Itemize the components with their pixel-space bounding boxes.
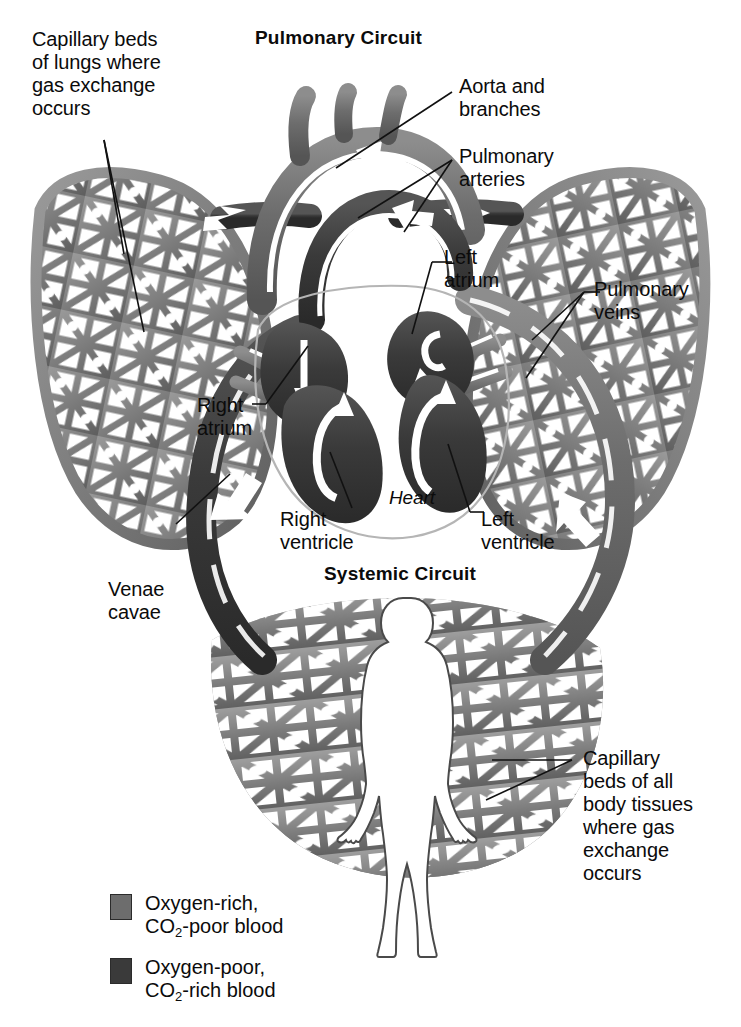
pulmonary-circuit-title: Pulmonary Circuit [255, 26, 422, 49]
legend-line2-sub-oxygen-poor: 2 [175, 989, 182, 1004]
legend-swatch-oxygen-poor [110, 958, 132, 984]
legend-line1-oxygen-poor: Oxygen-poor, [145, 956, 265, 978]
pulmonary-trunk [311, 200, 460, 320]
legend-line1-oxygen-rich: Oxygen-rich, [145, 892, 258, 914]
label-left-atrium: Left atrium [444, 246, 499, 292]
label-capillary-beds-body: Capillary beds of all body tissues where… [583, 747, 693, 885]
label-capillary-beds-lungs: Capillary beds of lungs where gas exchan… [32, 28, 161, 120]
legend-line2-post-oxygen-poor: -rich blood [182, 979, 275, 1001]
label-left-ventricle: Left ventricle [481, 508, 555, 554]
legend-item-oxygen-rich: Oxygen-rich,CO2-poor blood [110, 892, 283, 940]
legend-text-oxygen-poor: Oxygen-poor,CO2-rich blood [145, 956, 276, 1004]
legend-line2-sub-oxygen-rich: 2 [175, 925, 182, 940]
right-ventricle-chamber [281, 385, 382, 523]
legend-line2-pre-oxygen-rich: CO [145, 915, 175, 937]
label-pulmonary-arteries: Pulmonary arteries [459, 145, 554, 191]
systemic-circuit-title: Systemic Circuit [324, 562, 476, 585]
label-venae-cavae: Venae cavae [108, 578, 164, 624]
legend-item-oxygen-poor: Oxygen-poor,CO2-rich blood [110, 956, 276, 1004]
legend-swatch-oxygen-rich [110, 894, 132, 920]
legend-text-oxygen-rich: Oxygen-rich,CO2-poor blood [145, 892, 283, 940]
label-aorta-and-branches: Aorta and branches [459, 75, 545, 121]
label-right-atrium: Right atrium [197, 394, 252, 440]
label-pulmonary-veins: Pulmonary veins [594, 278, 689, 324]
label-right-ventricle: Right ventricle [280, 508, 354, 554]
legend-line2-post-oxygen-rich: -poor blood [182, 915, 283, 937]
legend-line2-pre-oxygen-poor: CO [145, 979, 175, 1001]
figure-page: Pulmonary Circuit Systemic Circuit Capil… [0, 0, 741, 1027]
label-heart: Heart [389, 486, 435, 509]
